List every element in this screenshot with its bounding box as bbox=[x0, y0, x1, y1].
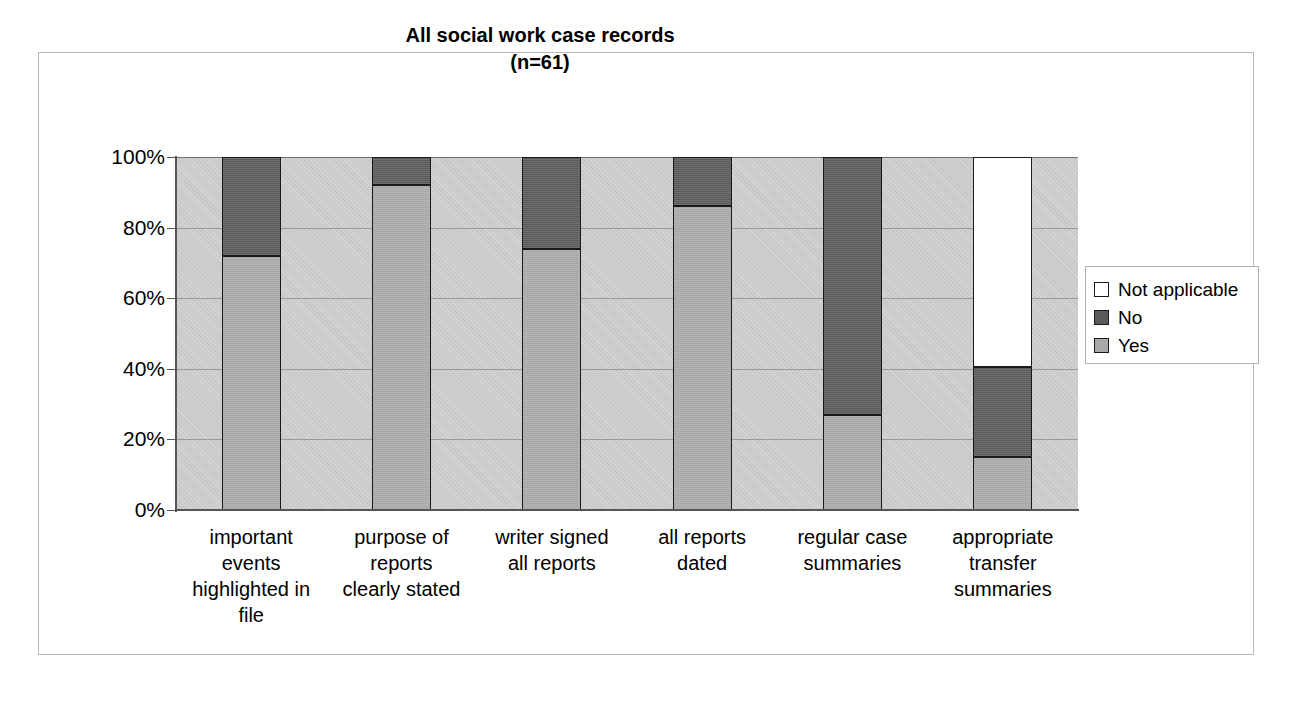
legend-item-na[interactable]: Not applicable bbox=[1094, 275, 1252, 303]
y-tick-label-0: 0% bbox=[15, 499, 165, 520]
x-category-label-line: reports bbox=[328, 550, 474, 576]
gridline-20 bbox=[176, 439, 1078, 440]
x-category-label-line: events bbox=[178, 550, 324, 576]
bar-segment-no[interactable] bbox=[522, 157, 581, 249]
legend-label: Yes bbox=[1118, 336, 1149, 355]
y-tick-mark-60 bbox=[167, 298, 176, 299]
x-category-label-2: purpose ofreportsclearly stated bbox=[326, 524, 476, 634]
chart-title-main: All social work case records bbox=[405, 24, 674, 46]
legend-item-no[interactable]: No bbox=[1094, 303, 1252, 331]
bar-group[interactable] bbox=[222, 157, 281, 510]
bar-segment-no[interactable] bbox=[973, 367, 1032, 457]
x-category-label-1: importanteventshighlighted infile bbox=[176, 524, 326, 634]
y-tick-label-100: 100% bbox=[15, 146, 165, 167]
bar-segment-no[interactable] bbox=[222, 157, 281, 256]
bar-segment-yes[interactable] bbox=[973, 457, 1032, 510]
y-tick-label-20: 20% bbox=[15, 428, 165, 449]
y-tick-mark-0 bbox=[167, 510, 176, 511]
bar-segment-na[interactable] bbox=[973, 157, 1032, 367]
x-category-label-line: all reports bbox=[629, 524, 775, 550]
legend-swatch-yes bbox=[1094, 338, 1109, 353]
x-category-label-line: purpose of bbox=[328, 524, 474, 550]
chart-legend: Not applicableNoYes bbox=[1085, 266, 1259, 364]
x-category-label-line: summaries bbox=[779, 550, 925, 576]
x-category-label-line: summaries bbox=[930, 576, 1076, 602]
bar-segment-yes[interactable] bbox=[673, 206, 732, 510]
bar-segment-no[interactable] bbox=[823, 157, 882, 415]
bar-segment-no[interactable] bbox=[673, 157, 732, 206]
x-category-label-6: appropriatetransfersummaries bbox=[928, 524, 1078, 634]
plot-area bbox=[176, 157, 1078, 510]
bar-segment-no[interactable] bbox=[372, 157, 431, 185]
x-category-label-line: highlighted in bbox=[178, 576, 324, 602]
x-category-label-line: dated bbox=[629, 550, 775, 576]
y-tick-label-40: 40% bbox=[15, 358, 165, 379]
y-tick-label-80: 80% bbox=[15, 217, 165, 238]
bar-group[interactable] bbox=[372, 157, 431, 510]
y-axis-line bbox=[175, 156, 177, 512]
x-category-label-line: clearly stated bbox=[328, 576, 474, 602]
gridline-80 bbox=[176, 228, 1078, 229]
y-tick-mark-80 bbox=[167, 228, 176, 229]
gridline-60 bbox=[176, 298, 1078, 299]
x-category-label-3: writer signedall reports bbox=[477, 524, 627, 634]
x-category-label-line: regular case bbox=[779, 524, 925, 550]
x-category-label-4: all reportsdated bbox=[627, 524, 777, 634]
x-axis-category-labels: importanteventshighlighted infilepurpose… bbox=[176, 524, 1078, 634]
bar-segment-yes[interactable] bbox=[372, 185, 431, 510]
gridline-40 bbox=[176, 369, 1078, 370]
y-tick-mark-100 bbox=[167, 157, 176, 158]
x-category-label-line: transfer bbox=[930, 550, 1076, 576]
legend-item-yes[interactable]: Yes bbox=[1094, 331, 1252, 359]
bar-group[interactable] bbox=[673, 157, 732, 510]
y-tick-label-60: 60% bbox=[15, 287, 165, 308]
chart-page: All social work case records (n=61) 100%… bbox=[0, 0, 1293, 702]
bar-group[interactable] bbox=[522, 157, 581, 510]
x-category-label-line: writer signed bbox=[479, 524, 625, 550]
legend-swatch-no bbox=[1094, 310, 1109, 325]
legend-label: Not applicable bbox=[1118, 280, 1238, 299]
y-tick-mark-20 bbox=[167, 439, 176, 440]
legend-label: No bbox=[1118, 308, 1142, 327]
bar-segment-yes[interactable] bbox=[823, 415, 882, 510]
y-axis-tick-labels: 100%80%60%40%20%0% bbox=[10, 0, 165, 702]
bar-group[interactable] bbox=[823, 157, 882, 510]
bar-segment-yes[interactable] bbox=[222, 256, 281, 510]
x-category-label-line: all reports bbox=[479, 550, 625, 576]
x-category-label-line: file bbox=[178, 602, 324, 628]
bar-group[interactable] bbox=[973, 157, 1032, 510]
x-category-label-5: regular casesummaries bbox=[777, 524, 927, 634]
x-axis-line bbox=[175, 509, 1079, 511]
x-category-label-line: important bbox=[178, 524, 324, 550]
plot-top-border bbox=[176, 157, 1078, 158]
x-category-label-line: appropriate bbox=[930, 524, 1076, 550]
bar-segment-yes[interactable] bbox=[522, 249, 581, 510]
legend-swatch-na bbox=[1094, 282, 1109, 297]
y-tick-mark-40 bbox=[167, 369, 176, 370]
